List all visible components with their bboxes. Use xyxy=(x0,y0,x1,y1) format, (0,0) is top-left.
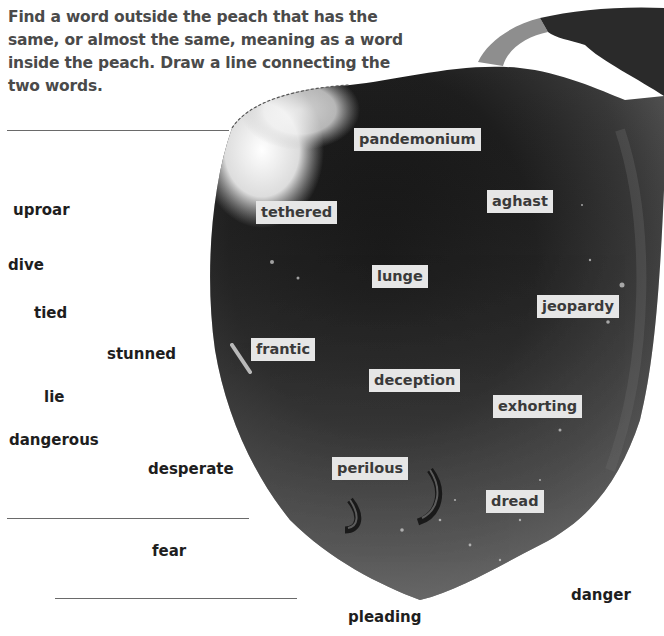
inside-word-dread[interactable]: dread xyxy=(486,490,544,513)
inside-word-exhorting[interactable]: exhorting xyxy=(493,395,582,418)
inside-word-tethered[interactable]: tethered xyxy=(256,201,337,224)
peach-stem xyxy=(478,18,548,66)
inside-word-jeopardy[interactable]: jeopardy xyxy=(537,295,619,318)
inside-word-pandemonium[interactable]: pandemonium xyxy=(354,128,481,151)
instructions-text: Find a word outside the peach that has t… xyxy=(8,6,408,98)
inside-word-perilous[interactable]: perilous xyxy=(332,457,408,480)
outside-word-desperate[interactable]: desperate xyxy=(148,460,234,478)
inside-word-aghast[interactable]: aghast xyxy=(487,190,553,213)
answer-line xyxy=(55,598,297,599)
outside-word-danger[interactable]: danger xyxy=(571,586,631,604)
outside-word-fear[interactable]: fear xyxy=(152,542,186,560)
outside-word-dangerous[interactable]: dangerous xyxy=(9,431,99,449)
outside-word-stunned[interactable]: stunned xyxy=(107,345,176,363)
answer-line xyxy=(7,130,229,131)
inside-word-deception[interactable]: deception xyxy=(369,369,460,392)
outside-word-dive[interactable]: dive xyxy=(8,256,44,274)
inside-word-frantic[interactable]: frantic xyxy=(251,338,315,361)
outside-word-pleading[interactable]: pleading xyxy=(348,608,421,626)
outside-word-lie[interactable]: lie xyxy=(44,388,64,406)
answer-line xyxy=(7,518,249,519)
outside-word-tied[interactable]: tied xyxy=(34,304,67,322)
outside-word-uproar[interactable]: uproar xyxy=(13,201,70,219)
inside-word-lunge[interactable]: lunge xyxy=(372,265,428,288)
